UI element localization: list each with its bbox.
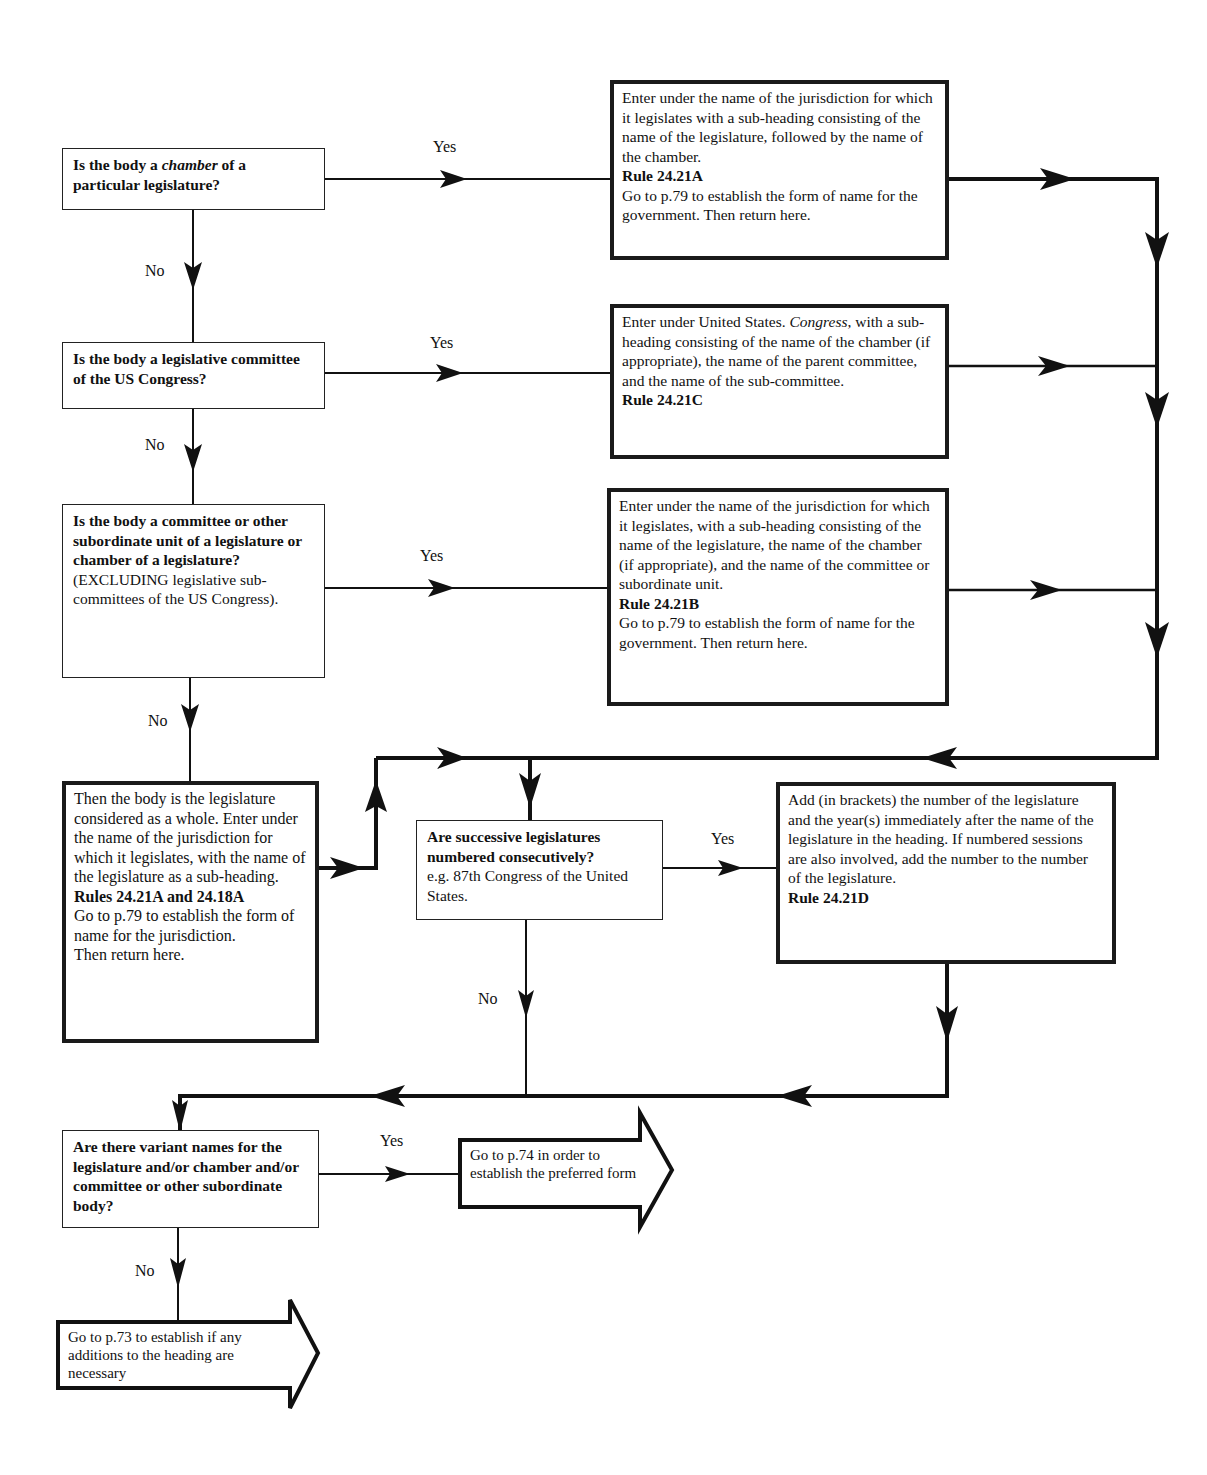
q2-text: Is the body a legislative committee of t…: [73, 350, 300, 387]
q5-note: e.g. 87th Congress of the United States.: [427, 866, 652, 905]
a1-goto: Go to p.79 to establish the form of name…: [622, 186, 937, 225]
a1-rule: Rule 24.21A: [622, 166, 937, 186]
action-rule-24-21a: Enter under the name of the jurisdiction…: [610, 80, 949, 260]
a2-prefix: Enter under United States.: [622, 313, 789, 330]
q5-text: Are successive legislatures numbered con…: [427, 827, 652, 866]
no-label-q5: No: [478, 990, 498, 1008]
a3-rule: Rule 24.21B: [619, 594, 937, 614]
a5-text: Add (in brackets) the number of the legi…: [788, 790, 1104, 888]
decision-variant-names: Are there variant names for the legislat…: [62, 1130, 319, 1228]
yes-label-q5: Yes: [711, 830, 734, 848]
decision-numbered-consecutively: Are successive legislatures numbered con…: [416, 820, 663, 920]
q3-text: Is the body a committee or other subordi…: [73, 511, 314, 570]
a4-goto: Go to p.79 to establish the form of name…: [74, 906, 307, 945]
a5-rule: Rule 24.21D: [788, 888, 1104, 908]
q3-note: (EXCLUDING legislative sub-committees of…: [73, 570, 314, 609]
a4-text: Then the body is the legislature conside…: [74, 789, 307, 887]
a2-rule: Rule 24.21C: [622, 390, 937, 410]
q6-text: Are there variant names for the legislat…: [73, 1138, 299, 1214]
a4-rule: Rules 24.21A and 24.18A: [74, 887, 307, 907]
connector-lines: [0, 0, 1207, 1475]
action-rule-24-21d: Add (in brackets) the number of the legi…: [776, 782, 1116, 964]
exit-yes-text: Go to p.74 in order to establish the pre…: [470, 1147, 636, 1181]
action-rule-24-21c: Enter under United States. Congress, wit…: [610, 304, 949, 459]
yes-label-q6: Yes: [380, 1132, 403, 1150]
no-label-q2: No: [145, 436, 165, 454]
exit-goto-p74[interactable]: Go to p.74 in order to establish the pre…: [470, 1146, 640, 1182]
exit-no-text: Go to p.73 to establish if any additions…: [68, 1329, 242, 1381]
exit-goto-p73[interactable]: Go to p.73 to establish if any additions…: [68, 1328, 293, 1382]
action-rule-24-21b: Enter under the name of the jurisdiction…: [607, 488, 949, 706]
a4-return: Then return here.: [74, 945, 307, 965]
decision-chamber: Is the body a chamber of a particular le…: [62, 148, 325, 210]
no-label-q1: No: [145, 262, 165, 280]
no-label-q6: No: [135, 1262, 155, 1280]
no-label-q3: No: [148, 712, 168, 730]
a3-text: Enter under the name of the jurisdiction…: [619, 496, 937, 594]
a3-goto: Go to p.79 to establish the form of name…: [619, 613, 937, 652]
a1-text: Enter under the name of the jurisdiction…: [622, 88, 937, 166]
q1-text-a: Is the body a: [73, 156, 162, 173]
yes-label-q2: Yes: [430, 334, 453, 352]
action-rules-24-21a-24-18a: Then the body is the legislature conside…: [62, 781, 319, 1043]
yes-label-q3: Yes: [420, 547, 443, 565]
a2-italic: Congress: [789, 313, 847, 330]
yes-label-q1: Yes: [433, 138, 456, 156]
decision-us-congress-committee: Is the body a legislative committee of t…: [62, 342, 325, 409]
q1-text-italic: chamber: [162, 156, 218, 173]
decision-committee-subordinate: Is the body a committee or other subordi…: [62, 504, 325, 678]
